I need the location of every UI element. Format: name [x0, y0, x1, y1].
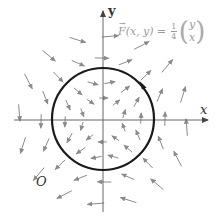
equals-sign: = [157, 25, 166, 38]
field-arrow [186, 119, 187, 136]
field-arrow [66, 100, 70, 110]
y-axis-label: y [108, 3, 116, 18]
field-arrow [174, 151, 182, 166]
field-arrow [108, 155, 119, 158]
field-arrow [86, 135, 93, 140]
field-arrow [112, 136, 119, 141]
field-name: →F(x, y) [118, 25, 154, 38]
field-arrow [53, 72, 63, 82]
field-arrow [158, 136, 163, 149]
field-arrow [70, 37, 86, 42]
field-arrow [91, 156, 102, 158]
field-arrow [122, 174, 135, 180]
field-arrow [141, 70, 151, 80]
field-arrow [25, 74, 33, 89]
field-arrow [157, 89, 163, 102]
field-formula: →F(x, y) = 1 4 ( y x ) [118, 18, 205, 44]
field-arrow [81, 108, 84, 116]
left-paren: ( [179, 18, 189, 44]
field-arrow [113, 100, 120, 105]
field-arrow [120, 198, 136, 203]
field-arrow [43, 91, 48, 104]
field-arrow [72, 60, 85, 66]
field-arrow [104, 82, 115, 84]
field-arrow [141, 113, 142, 124]
origin-label: O [36, 174, 47, 189]
vector-arrow-icon: → [119, 19, 126, 28]
field-arrow [43, 139, 49, 152]
field-arrow [74, 88, 82, 95]
field-arrow [81, 122, 84, 131]
field-arrow [143, 158, 153, 168]
field-arrow [20, 137, 25, 153]
field-arrow [76, 148, 85, 155]
field-arrow [102, 36, 119, 37]
field-arrow [87, 203, 104, 204]
field-arrow [162, 60, 173, 73]
field-arrow [122, 123, 125, 131]
field-arrow [65, 116, 66, 127]
field-arrow [151, 179, 164, 190]
right-paren: ) [195, 18, 205, 44]
field-arrow [74, 175, 87, 180]
field-arrow [19, 104, 20, 121]
field-arrow [124, 145, 132, 152]
field-arrow [88, 82, 99, 85]
x-axis-label: x [200, 102, 207, 117]
field-arrow [121, 86, 130, 93]
field-arrow [67, 133, 72, 143]
field-arrow [55, 160, 65, 170]
field-arrow [123, 110, 126, 119]
field-arrow [136, 130, 140, 140]
field-arrow [181, 87, 186, 103]
field-arrow [87, 99, 94, 104]
field-arrow [119, 60, 132, 65]
field-arrow [134, 97, 139, 107]
field-arrow [57, 191, 72, 199]
field-arrow [43, 50, 56, 61]
coefficient-fraction: 1 4 [171, 22, 177, 41]
